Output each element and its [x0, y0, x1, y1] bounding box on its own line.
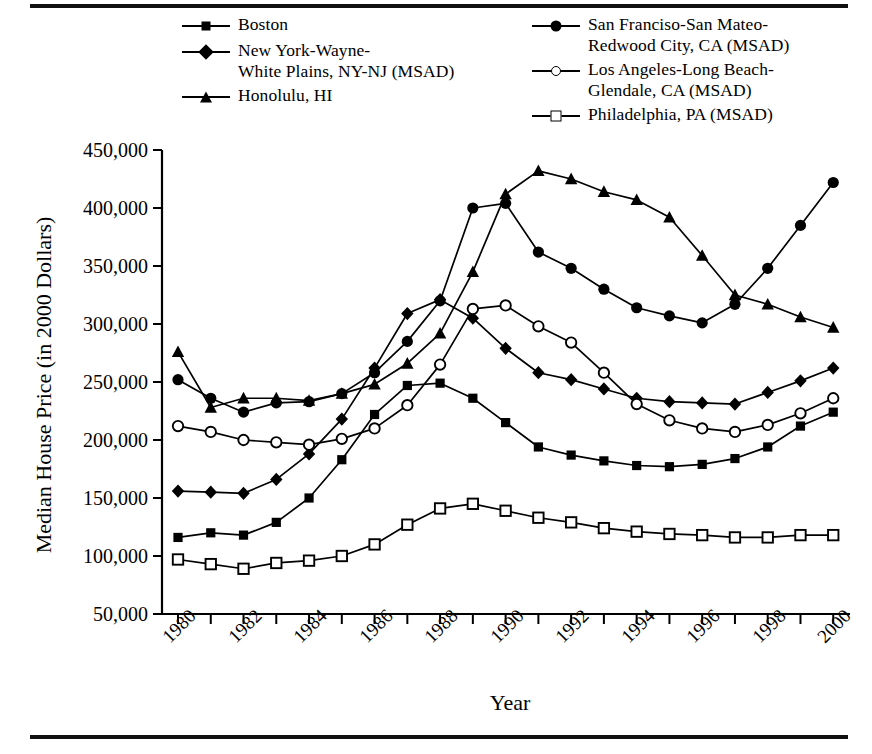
- data-point-diamond-filled: [205, 486, 217, 499]
- data-point-diamond-filled: [696, 396, 708, 409]
- data-point-triangle-filled: [467, 265, 479, 277]
- data-point-circle-open: [697, 423, 707, 433]
- figure-container: BostonNew York-Wayne- White Plains, NY-N…: [0, 0, 872, 754]
- data-point-square-open: [435, 503, 445, 513]
- data-point-square-open: [369, 539, 379, 549]
- data-point-triangle-filled: [172, 345, 184, 357]
- data-point-square-filled: [304, 493, 313, 502]
- data-point-square-filled: [763, 442, 772, 451]
- data-point-circle-open: [533, 321, 543, 331]
- data-point-circle-filled: [271, 397, 282, 408]
- data-point-square-filled: [239, 531, 248, 540]
- data-point-circle-open: [631, 399, 641, 409]
- data-point-square-open: [500, 506, 510, 516]
- data-point-circle-open: [238, 435, 248, 445]
- data-point-square-open: [271, 558, 281, 568]
- data-point-square-filled: [370, 410, 379, 419]
- data-point-diamond-filled: [794, 374, 806, 387]
- data-point-circle-open: [206, 427, 216, 437]
- data-point-circle-open: [369, 423, 379, 433]
- plot-area: 50,000100,000150,000200,000250,000300,00…: [0, 0, 872, 754]
- data-point-diamond-filled: [663, 395, 675, 408]
- data-point-diamond-filled: [401, 307, 413, 320]
- y-tick-label: 200,000: [44, 429, 148, 452]
- data-point-circle-open: [566, 337, 576, 347]
- data-point-circle-open: [468, 304, 478, 314]
- data-point-square-filled: [435, 379, 444, 388]
- data-point-circle-filled: [336, 388, 347, 399]
- data-point-diamond-filled: [598, 382, 610, 395]
- data-point-circle-open: [435, 359, 445, 369]
- data-point-square-filled: [534, 442, 543, 451]
- data-point-square-filled: [173, 533, 182, 542]
- data-point-circle-open: [500, 300, 510, 310]
- data-point-square-filled: [272, 518, 281, 527]
- data-point-circle-filled: [762, 263, 773, 274]
- data-point-square-filled: [599, 456, 608, 465]
- y-tick-label: 350,000: [44, 255, 148, 278]
- data-point-diamond-filled: [172, 484, 184, 497]
- data-point-square-open: [730, 532, 740, 542]
- data-point-circle-filled: [500, 198, 511, 209]
- data-point-triangle-filled: [663, 211, 675, 223]
- series-4: [173, 300, 839, 450]
- data-point-circle-open: [664, 415, 674, 425]
- data-point-square-filled: [829, 408, 838, 417]
- data-point-circle-open: [828, 393, 838, 403]
- data-point-square-open: [828, 530, 838, 540]
- data-point-circle-open: [730, 427, 740, 437]
- data-point-circle-filled: [434, 295, 445, 306]
- data-point-circle-filled: [828, 177, 839, 188]
- data-point-square-open: [795, 530, 805, 540]
- series-5: [173, 499, 839, 574]
- data-point-square-filled: [730, 454, 739, 463]
- data-point-circle-filled: [172, 374, 183, 385]
- data-point-triangle-filled: [532, 164, 544, 176]
- data-point-triangle-filled: [499, 188, 511, 200]
- data-point-circle-filled: [631, 302, 642, 313]
- data-point-triangle-filled: [434, 327, 446, 339]
- data-point-triangle-filled: [794, 311, 806, 323]
- data-point-square-filled: [206, 528, 215, 537]
- data-point-circle-open: [763, 420, 773, 430]
- data-point-circle-open: [795, 408, 805, 418]
- data-point-circle-open: [337, 434, 347, 444]
- data-point-square-filled: [403, 381, 412, 390]
- data-point-circle-filled: [729, 299, 740, 310]
- y-tick-label: 400,000: [44, 197, 148, 220]
- data-point-circle-filled: [369, 367, 380, 378]
- data-point-diamond-filled: [565, 373, 577, 386]
- data-point-circle-filled: [598, 284, 609, 295]
- data-point-square-open: [238, 564, 248, 574]
- x-axis-title: Year: [160, 690, 860, 716]
- data-point-square-open: [468, 499, 478, 509]
- data-point-circle-filled: [205, 393, 216, 404]
- data-point-triangle-filled: [368, 378, 380, 390]
- data-point-square-open: [173, 554, 183, 564]
- data-point-circle-open: [271, 437, 281, 447]
- data-point-diamond-filled: [729, 397, 741, 410]
- y-tick-label: 450,000: [44, 139, 148, 162]
- data-point-circle-open: [304, 439, 314, 449]
- data-point-circle-filled: [402, 336, 413, 347]
- data-point-circle-filled: [697, 317, 708, 328]
- data-point-diamond-filled: [270, 473, 282, 486]
- axes: [153, 150, 850, 624]
- data-point-square-open: [697, 530, 707, 540]
- y-tick-label: 150,000: [44, 487, 148, 510]
- data-point-diamond-filled: [532, 366, 544, 379]
- data-point-diamond-filled: [762, 386, 774, 399]
- data-point-square-open: [304, 555, 314, 565]
- y-tick-label: 250,000: [44, 371, 148, 394]
- data-point-square-open: [664, 529, 674, 539]
- data-point-square-filled: [501, 418, 510, 427]
- data-point-square-filled: [698, 460, 707, 469]
- data-point-square-filled: [468, 394, 477, 403]
- y-tick-label: 300,000: [44, 313, 148, 336]
- data-point-square-open: [631, 526, 641, 536]
- y-axis-title: Median House Price (in 2000 Dollars): [31, 175, 57, 595]
- data-point-square-open: [763, 532, 773, 542]
- data-point-diamond-filled: [827, 361, 839, 374]
- data-point-circle-filled: [303, 396, 314, 407]
- data-point-circle-filled: [238, 407, 249, 418]
